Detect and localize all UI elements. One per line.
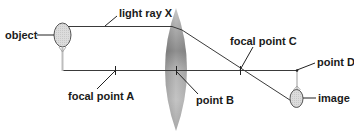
focal-point-c-leader [240, 47, 253, 70]
object-racket [54, 23, 71, 71]
object-label: object [5, 29, 38, 41]
point-d-leader [297, 63, 315, 70]
image-racket [290, 69, 303, 107]
point-b-label: point B [196, 94, 234, 106]
ray-diagram: object light ray X focal point A point B… [0, 0, 354, 137]
focal-point-a-label: focal point A [68, 90, 134, 102]
light-ray-leader [105, 16, 117, 26]
focal-point-c-label: focal point C [230, 35, 297, 47]
light-ray-x-label: light ray X [119, 7, 173, 19]
point-d-label: point D [317, 56, 354, 68]
focal-point-a-leader [97, 71, 115, 89]
image-label: image [318, 92, 350, 104]
